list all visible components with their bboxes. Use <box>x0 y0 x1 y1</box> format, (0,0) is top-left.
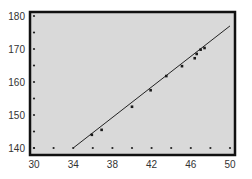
x-tick-label: 38 <box>107 159 119 170</box>
axis-dot <box>33 147 35 149</box>
y-tick-label: 170 <box>8 44 25 55</box>
axis-dot <box>170 147 172 149</box>
axis-dot <box>111 147 113 149</box>
y-tick-label: 140 <box>8 143 25 154</box>
axis-dot <box>190 147 192 149</box>
x-axis-tick-labels: 303438424650 <box>28 159 236 170</box>
y-tick-label: 160 <box>8 77 25 88</box>
x-tick-label: 30 <box>28 159 40 170</box>
x-tick-label: 34 <box>68 159 80 170</box>
data-point <box>131 105 134 108</box>
plot-area <box>30 12 235 155</box>
axis-dot <box>33 114 35 116</box>
axis-dot <box>33 48 35 50</box>
axis-dot <box>33 15 35 17</box>
axis-dot <box>33 31 35 33</box>
axis-dot <box>33 97 35 99</box>
axis-dot <box>209 147 211 149</box>
data-point <box>203 47 206 50</box>
data-point <box>193 57 196 60</box>
axis-dot <box>33 64 35 66</box>
data-point <box>100 129 103 132</box>
data-point <box>199 48 202 51</box>
axis-dot <box>151 147 153 149</box>
y-tick-label: 180 <box>8 11 25 22</box>
axis-dot <box>131 147 133 149</box>
axis-dot <box>33 130 35 132</box>
axis-dot <box>92 147 94 149</box>
data-point <box>181 65 184 68</box>
scatter-chart: 140150160170180 303438424650 <box>0 0 252 179</box>
x-tick-label: 50 <box>224 159 236 170</box>
axis-dot <box>229 147 231 149</box>
x-tick-label: 42 <box>146 159 158 170</box>
axis-dot <box>33 81 35 83</box>
data-point <box>165 75 168 78</box>
x-tick-label: 46 <box>185 159 197 170</box>
y-tick-label: 150 <box>8 110 25 121</box>
data-point <box>195 53 198 56</box>
data-point <box>149 89 152 92</box>
axis-dot <box>53 147 55 149</box>
y-axis-tick-labels: 140150160170180 <box>8 11 25 154</box>
data-point <box>91 134 94 137</box>
